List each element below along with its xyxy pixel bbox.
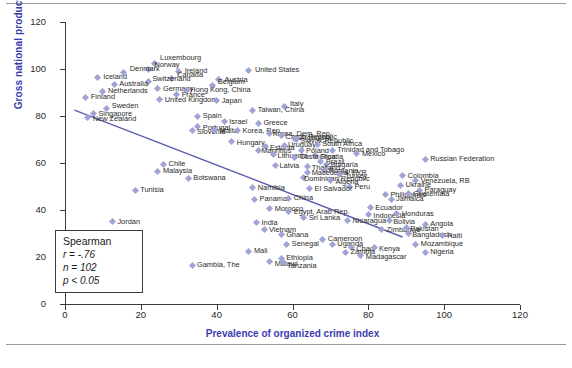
point-label: Switzerland (152, 75, 190, 83)
y-tick-label: 60 (6, 157, 46, 168)
point-label: Sri Lanka (309, 214, 340, 222)
point-label: Nigeria (430, 248, 453, 256)
point-label: Mexico (362, 150, 385, 158)
x-tick-label: 60 (273, 309, 313, 320)
point-label: Gambia, The (197, 261, 240, 269)
point-label: Denmark (130, 65, 160, 73)
point-label: Finland (91, 93, 115, 101)
spearman-stats-box: Spearman r = -.76 n = 102 p < 0.05 (55, 230, 143, 293)
y-tick-label: 20 (6, 251, 46, 262)
y-tick-label: 100 (6, 63, 46, 74)
point-label: Latvia (279, 162, 299, 170)
y-tick-label: 0 (6, 298, 46, 309)
figure-panel: 020406080100120 020406080100120 Luxembou… (0, 0, 572, 368)
point-label: Panama (260, 195, 288, 203)
y-tick-label: 120 (6, 16, 46, 27)
point-label: Jordan (117, 218, 140, 226)
x-tick-label: 120 (500, 309, 540, 320)
point-label: Madagascar (366, 253, 407, 261)
point-label: Ghana (286, 231, 308, 239)
top-divider-rule (6, 3, 566, 4)
point-label: Botswana (193, 174, 225, 182)
point-label: Tunisia (140, 186, 164, 194)
point-label: China (294, 194, 313, 202)
point-label: Mali (254, 247, 268, 255)
stats-p: p < 0.05 (63, 274, 135, 287)
x-tick-label: 0 (45, 309, 85, 320)
y-axis-title: Gross national product per capita (rank) (13, 0, 24, 132)
point-label: Spain (203, 112, 222, 120)
stats-title: Spearman (63, 235, 135, 248)
point-label: Namibia (258, 184, 285, 192)
point-label: Russian Federation (430, 155, 494, 163)
point-label: New Zealand (93, 115, 137, 123)
point-label: United Kingdom (165, 96, 218, 104)
bottom-divider-rule (6, 344, 566, 345)
x-tick-label: 20 (121, 309, 161, 320)
point-label: Nicaragua (352, 217, 386, 225)
point-label: Israel (229, 118, 247, 126)
x-axis-title: Prevalence of organized crime index (65, 328, 520, 339)
point-label: Japan (222, 97, 242, 105)
point-label: Tanzania (287, 262, 317, 270)
x-tick-label: 100 (424, 309, 464, 320)
y-tick-label: 40 (6, 204, 46, 215)
y-tick-label: 80 (6, 110, 46, 121)
point-label: United States (255, 66, 299, 74)
point-label: Taiwan, China (258, 106, 304, 114)
point-label: Peru (354, 183, 370, 191)
x-tick-label: 80 (348, 309, 388, 320)
point-label: Senegal (292, 240, 319, 248)
stats-r: r = -.76 (63, 248, 135, 261)
x-tick-label: 40 (197, 309, 237, 320)
stats-n: n = 102 (63, 261, 135, 274)
point-label: El Salvador (315, 185, 353, 193)
